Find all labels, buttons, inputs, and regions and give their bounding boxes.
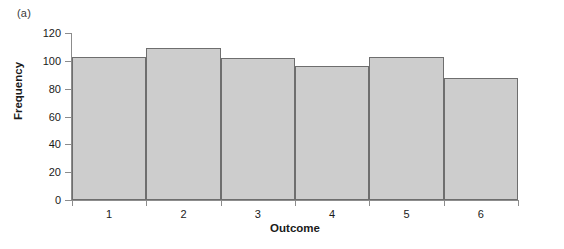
y-axis-tick-label: 100 <box>35 55 61 67</box>
y-axis-tick <box>65 117 71 118</box>
y-axis-tick-label-wrap: 120 <box>35 33 61 34</box>
x-axis-tick-label: 4 <box>317 208 347 220</box>
x-axis-tick <box>369 201 370 206</box>
histogram-bar <box>369 57 443 200</box>
y-axis-tick <box>65 172 71 173</box>
y-axis-tick-label-wrap: 0 <box>35 200 61 201</box>
x-axis-tick <box>518 201 519 206</box>
y-axis-tick-label: 40 <box>35 138 61 150</box>
x-axis-tick <box>146 201 147 206</box>
y-axis-tick-label-wrap: 40 <box>35 144 61 145</box>
histogram-bar <box>444 78 518 200</box>
x-axis-tick-label: 6 <box>466 208 496 220</box>
histogram-bar <box>146 48 220 200</box>
panel-label: (a) <box>17 7 31 19</box>
x-axis-tick-label: 2 <box>169 208 199 220</box>
y-axis-tick-label-wrap: 20 <box>35 172 61 173</box>
x-axis-tick <box>295 201 296 206</box>
histogram-bar <box>72 57 146 200</box>
y-axis-tick-label-wrap: 60 <box>35 117 61 118</box>
x-axis-title: Outcome <box>72 222 518 234</box>
x-axis-tick <box>72 201 73 206</box>
plot-area <box>72 33 518 200</box>
y-axis-tick <box>65 61 71 62</box>
histogram-figure: (a) Frequency 020406080100120 123456 Out… <box>0 0 564 249</box>
x-axis-tick-label: 5 <box>392 208 422 220</box>
y-axis-title: Frequency <box>12 56 24 126</box>
histogram-bar <box>295 66 369 200</box>
y-axis-tick <box>65 89 71 90</box>
y-axis-tick-label: 80 <box>35 83 61 95</box>
y-axis-tick-label: 120 <box>35 27 61 39</box>
x-axis-tick-label: 1 <box>94 208 124 220</box>
x-axis-tick <box>444 201 445 206</box>
x-axis-tick <box>221 201 222 206</box>
y-axis-tick-label: 60 <box>35 111 61 123</box>
x-axis-tick-label: 3 <box>243 208 273 220</box>
y-axis-tick-label-wrap: 100 <box>35 61 61 62</box>
y-axis-tick-label: 20 <box>35 166 61 178</box>
y-axis-tick <box>65 200 71 201</box>
y-axis-tick-label: 0 <box>35 194 61 206</box>
y-axis-tick-label-wrap: 80 <box>35 89 61 90</box>
y-axis-tick <box>65 33 71 34</box>
histogram-bar <box>221 58 295 200</box>
y-axis-tick <box>65 144 71 145</box>
